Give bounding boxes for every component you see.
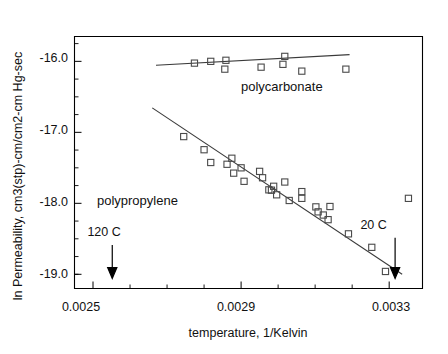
data-point [257, 168, 263, 174]
series-label-polycarbonate: polycarbonate [241, 79, 323, 94]
y-axis-minor-ticks [75, 44, 79, 275]
series-label-polypropylene: polypropylene [97, 193, 178, 208]
data-point [241, 178, 247, 184]
fit-line-polypropylene [152, 108, 402, 274]
data-point [222, 66, 228, 72]
data-point [299, 189, 305, 195]
data-point [382, 268, 388, 274]
x-axis-title: temperature, 1/Kelvin [189, 326, 308, 340]
annotation-label-120c: 120 C [87, 225, 120, 239]
data-point [345, 231, 351, 237]
x-tick-label-2: 0.0033 [372, 300, 410, 314]
data-point [299, 68, 305, 74]
data-point [280, 61, 286, 67]
permeability-scatter-chart: -16.0 -17.0 -18.0 -19.0 0.0025 0.0029 0.… [0, 0, 448, 354]
x-tick-label-0: 0.0025 [62, 300, 100, 314]
data-point [405, 195, 411, 201]
arrow-head [108, 268, 117, 279]
data-point [181, 133, 187, 139]
data-point [343, 66, 349, 72]
y-tick-label-3: -19.0 [40, 267, 69, 281]
y-axis-title: ln Permeability, cm3(stp)-cm/cm2-cm Hg-s… [11, 52, 25, 300]
y-tick-label-0: -16.0 [40, 51, 69, 65]
data-point [224, 161, 230, 167]
data-point [258, 64, 264, 70]
data-point [231, 170, 237, 176]
annotation-label-20c: 20 C [360, 218, 386, 232]
y-tick-label-1: -17.0 [40, 123, 69, 137]
data-point [327, 203, 333, 209]
arrow-head [391, 268, 400, 279]
data-point [223, 57, 229, 63]
data-point [369, 244, 375, 250]
data-point [208, 58, 214, 64]
data-point [282, 179, 288, 185]
fit-line-polycarbonate [156, 55, 350, 66]
data-point [299, 195, 305, 201]
x-tick-label-1: 0.0029 [217, 300, 255, 314]
y-tick-label-2: -18.0 [40, 195, 69, 209]
x-axis-major-ticks [93, 282, 389, 289]
chart-svg: -16.0 -17.0 -18.0 -19.0 0.0025 0.0029 0.… [0, 0, 448, 354]
data-point [208, 159, 214, 165]
data-point [201, 147, 207, 153]
